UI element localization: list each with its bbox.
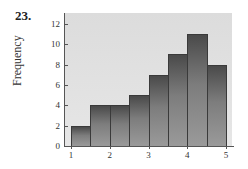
histogram-bar xyxy=(149,75,169,146)
x-tick-mark xyxy=(71,146,72,149)
histogram-bar xyxy=(110,105,130,146)
y-tick-label: 0 xyxy=(44,141,60,151)
y-axis-line xyxy=(64,13,65,147)
y-axis-label: Frequency xyxy=(10,35,25,86)
x-tick-label: 1 xyxy=(65,150,77,160)
y-tick-mark xyxy=(64,105,68,106)
y-tick-label: 4 xyxy=(44,100,60,110)
y-tick-label: 12 xyxy=(44,19,60,29)
y-tick-label: 6 xyxy=(44,80,60,90)
y-tick-label: 10 xyxy=(44,39,60,49)
y-tick-label: 8 xyxy=(44,60,60,70)
problem-number: 23. xyxy=(15,8,31,24)
y-tick-mark xyxy=(64,65,68,66)
y-tick-mark xyxy=(64,146,68,147)
y-tick-mark xyxy=(64,126,68,127)
y-tick-mark xyxy=(64,24,68,25)
y-tick-mark xyxy=(64,85,68,86)
x-tick-mark xyxy=(110,146,111,149)
x-tick-mark xyxy=(226,146,227,149)
y-tick-label: 2 xyxy=(44,121,60,131)
histogram-bar xyxy=(168,54,188,146)
x-tick-label: 2 xyxy=(104,150,116,160)
x-tick-mark xyxy=(187,146,188,149)
x-tick-label: 4 xyxy=(181,150,193,160)
histogram-bar xyxy=(207,65,227,146)
histogram-bar xyxy=(129,95,149,146)
x-tick-mark xyxy=(149,146,150,149)
histogram-bar xyxy=(187,34,207,146)
y-tick-mark xyxy=(64,44,68,45)
histogram-bar xyxy=(71,126,91,146)
x-tick-label: 3 xyxy=(143,150,155,160)
x-tick-label: 5 xyxy=(220,150,232,160)
histogram-bar xyxy=(90,105,110,146)
